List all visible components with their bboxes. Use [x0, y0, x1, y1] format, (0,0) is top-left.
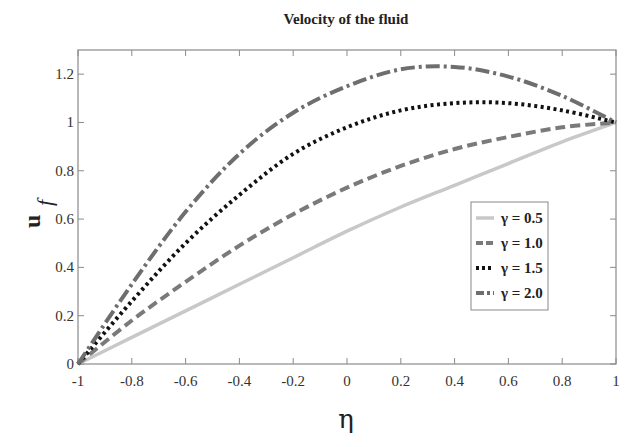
- x-tick-label: 0.2: [391, 373, 410, 389]
- y-tick-label: 0.6: [55, 211, 74, 227]
- x-tick-label: -0.6: [174, 373, 198, 389]
- y-tick-label: 0: [67, 356, 75, 372]
- y-tick-label: 0.8: [55, 163, 74, 179]
- x-tick-label: 0: [343, 373, 351, 389]
- y-axis-label-subscript: f: [32, 197, 57, 206]
- legend: γ = 0.5γ = 1.0γ = 1.5γ = 2.0: [471, 202, 548, 310]
- y-axis-label: u f: [19, 197, 57, 228]
- legend-label: γ = 1.5: [500, 260, 543, 276]
- x-tick-label: 0.8: [553, 373, 572, 389]
- x-tick-label: 1: [612, 373, 620, 389]
- x-tick-label: -0.8: [120, 373, 144, 389]
- x-tick-label: 0.6: [499, 373, 518, 389]
- y-tick-label: 0.2: [55, 308, 74, 324]
- y-tick-label: 0.4: [55, 259, 74, 275]
- y-axis-label-main: u: [19, 215, 45, 228]
- x-tick-label: -0.4: [228, 373, 252, 389]
- legend-label: γ = 2.0: [500, 285, 543, 301]
- x-tick-label: -0.2: [281, 373, 305, 389]
- velocity-chart: Velocity of the fluid -1-0.8-0.6-0.4-0.2…: [0, 0, 635, 447]
- chart-title: Velocity of the fluid: [284, 11, 410, 27]
- y-tick-label: 1: [67, 114, 75, 130]
- x-axis-label: η: [338, 404, 354, 434]
- y-tick-label: 1.2: [55, 66, 74, 82]
- x-tick-label: 0.4: [445, 373, 464, 389]
- legend-label: γ = 0.5: [500, 210, 543, 226]
- x-tick-label: -1: [72, 373, 85, 389]
- legend-label: γ = 1.0: [500, 235, 543, 251]
